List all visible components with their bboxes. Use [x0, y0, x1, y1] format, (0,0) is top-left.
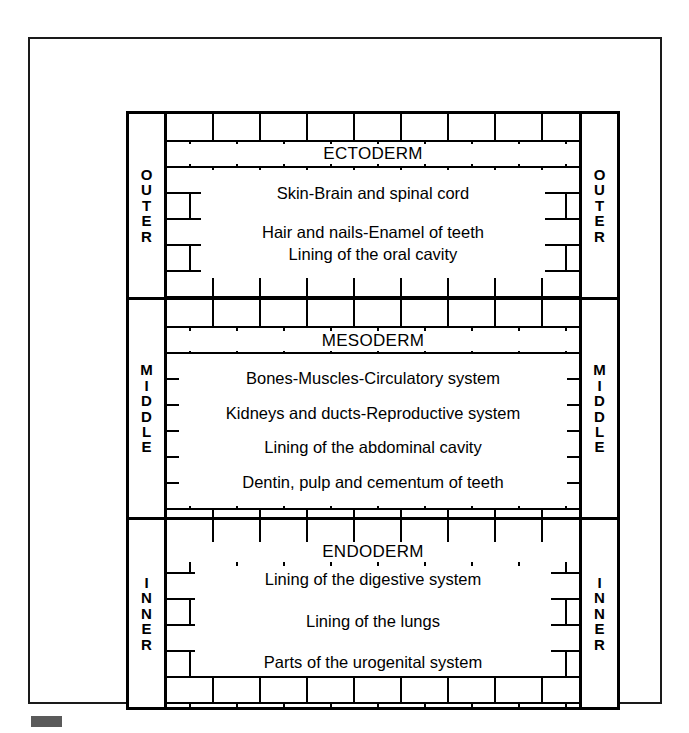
side-label-endoderm-right: I N N E R [579, 520, 617, 707]
derivatives-ectoderm: Skin-Brain and spinal cord Hair and nail… [201, 170, 545, 278]
layer-section-mesoderm: M I D D L E M I D D L E MESODERM Bones-M… [129, 300, 617, 520]
brick [567, 652, 580, 676]
side-label-endoderm-left: I N N E R [129, 520, 167, 707]
side-label-text: M I D D L E [140, 362, 153, 455]
brick-course [167, 676, 579, 702]
brick [379, 704, 426, 707]
brick [567, 600, 580, 624]
side-label-mesoderm-right: M I D D L E [579, 300, 617, 517]
brick [308, 510, 355, 517]
brick-course [167, 508, 579, 517]
layer-section-endoderm: I N N E R I N N E R ENDODERM Lining of t… [129, 520, 617, 707]
brick [496, 300, 543, 326]
brick [567, 432, 580, 456]
brick [449, 114, 496, 140]
side-label-text: I N N E R [594, 575, 605, 652]
brick [214, 300, 261, 326]
side-label-mesoderm-left: M I D D L E [129, 300, 167, 517]
brick [543, 114, 579, 140]
brick [261, 510, 308, 517]
brick [567, 704, 580, 707]
side-label-ectoderm-left: O U T E R [129, 114, 167, 297]
brick [167, 194, 191, 218]
brick [449, 510, 496, 517]
brick [214, 678, 261, 702]
brick [167, 246, 191, 270]
derivatives-endoderm: Lining of the digestive system Lining of… [195, 566, 551, 676]
brick [167, 300, 214, 326]
derivative-item: Lining of the oral cavity [286, 246, 461, 263]
layer-title-ectoderm: ECTODERM [129, 144, 617, 164]
brick [308, 300, 355, 326]
brick [167, 114, 214, 140]
brick [543, 272, 579, 296]
brick [449, 300, 496, 326]
brick [449, 678, 496, 702]
derivative-item: Hair and nails-Enamel of teeth [259, 224, 487, 241]
brick [543, 220, 579, 244]
brick-course [167, 296, 579, 297]
brick [543, 168, 579, 192]
brick [543, 510, 579, 517]
side-label-text: M I D D L E [593, 362, 606, 455]
layer-title-endoderm: ENDODERM [129, 542, 617, 562]
brick [496, 510, 543, 517]
side-label-text: O U T E R [594, 167, 606, 244]
brick [261, 678, 308, 702]
brick [496, 678, 543, 702]
brick [496, 114, 543, 140]
brick [308, 114, 355, 140]
brick [191, 704, 238, 707]
brick [543, 300, 579, 326]
brick [167, 600, 191, 624]
brick-course [167, 300, 579, 326]
derivative-item: Dentin, pulp and cementum of teeth [239, 474, 506, 491]
layer-section-ectoderm: O U T E R O U T E R ECTODERM Skin-Brain … [129, 114, 617, 300]
brick-course [167, 114, 579, 140]
brick [402, 510, 449, 517]
brick [402, 300, 449, 326]
brick [520, 704, 567, 707]
brick-wall-diagram: O U T E R O U T E R ECTODERM Skin-Brain … [126, 111, 620, 710]
brick [308, 678, 355, 702]
brick [426, 704, 473, 707]
brick [261, 114, 308, 140]
brick [402, 678, 449, 702]
derivative-item: Parts of the urogenital system [261, 654, 485, 671]
brick [214, 510, 261, 517]
brick [543, 678, 579, 702]
brick [355, 114, 402, 140]
brick [167, 678, 214, 702]
side-label-text: O U T E R [141, 167, 153, 244]
derivative-item: Lining of the digestive system [262, 571, 484, 588]
layer-title-mesoderm: MESODERM [129, 331, 617, 351]
brick-course [167, 702, 579, 707]
derivative-item: Kidneys and ducts-Reproductive system [223, 405, 523, 422]
brick [167, 704, 191, 707]
brick [355, 510, 402, 517]
brick [332, 704, 379, 707]
brick [473, 704, 520, 707]
brick [214, 114, 261, 140]
brick [567, 484, 580, 508]
side-label-ectoderm-right: O U T E R [579, 114, 617, 297]
brick [355, 300, 402, 326]
brick [355, 678, 402, 702]
brick [167, 510, 214, 517]
derivative-item: Bones-Muscles-Circulatory system [243, 370, 503, 387]
side-label-text: I N N E R [141, 575, 152, 652]
brick [285, 704, 332, 707]
brick [567, 380, 580, 404]
brick [167, 652, 191, 676]
brick [261, 300, 308, 326]
brick [567, 194, 580, 218]
derivative-item: Skin-Brain and spinal cord [274, 185, 473, 202]
derivative-item: Lining of the abdominal cavity [261, 439, 484, 456]
outer-frame: O U T E R O U T E R ECTODERM Skin-Brain … [28, 37, 662, 704]
brick [402, 114, 449, 140]
derivatives-mesoderm: Bones-Muscles-Circulatory system Kidneys… [179, 354, 567, 506]
corner-mark-icon [31, 716, 62, 727]
brick [238, 704, 285, 707]
brick [567, 246, 580, 270]
derivative-item: Lining of the lungs [303, 613, 443, 630]
